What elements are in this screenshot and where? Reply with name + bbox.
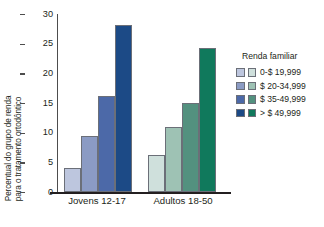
legend-swatch-blue-icon [236,95,245,104]
y-axis-tick-label: 20 [35,69,53,78]
bar-adultos-1 [148,155,165,192]
y-axis-tick [20,73,25,74]
y-axis-tick-label: 5 [35,158,53,167]
legend-item-4: > $ 49,999 [236,106,324,120]
legend-swatch-blue-icon [236,82,245,91]
legend-item-label: 0-$ 19,999 [260,68,301,77]
y-axis-title-line-2: para o tratamento ortodôntico [15,96,23,201]
y-axis-title: Percentual do grupo de renda para o trat… [0,0,30,205]
y-axis-tick-labels: 302520151050 [33,14,53,192]
plot-area [57,14,225,192]
bar-chart-figure: Percentual do grupo de renda para o trat… [0,0,324,227]
y-axis-tick-label: 30 [35,10,53,19]
legend-rows: 0-$ 19,999$ 20-34,999$ 35-49,999> $ 49,9… [236,66,324,120]
y-axis-title-line-1: Percentual do grupo de renda [5,95,13,201]
bar-jovens-2 [81,136,98,192]
legend-swatch-blue-icon [236,68,245,77]
bar-jovens-1 [64,168,81,192]
y-axis-tick-label: 10 [35,128,53,137]
y-axis-tick-label: 15 [35,99,53,108]
x-axis-line [50,192,231,194]
legend-swatch-blue-icon [236,109,245,118]
bar-adultos-2 [165,127,182,192]
bar-adultos-4 [199,48,216,192]
y-axis-tick [20,14,25,15]
legend-item-label: $ 20-34,999 [260,82,306,91]
y-axis-tick [20,162,25,163]
y-axis-tick [20,44,25,45]
legend-title: Renda familiar [242,52,324,61]
bar-group-jovens [64,14,140,192]
legend-item-label: > $ 49,999 [260,109,301,118]
bar-group-adultos [148,14,224,192]
y-axis-tick [20,133,25,134]
legend: Renda familiar 0-$ 19,999$ 20-34,999$ 35… [236,52,324,120]
legend-item-2: $ 20-34,999 [236,79,324,93]
legend-swatch-green-icon [248,95,257,104]
bar-jovens-4 [115,25,132,192]
legend-item-1: 0-$ 19,999 [236,66,324,80]
legend-swatch-green-icon [248,109,257,118]
y-axis-tick [20,103,25,104]
bar-jovens-3 [98,96,115,192]
legend-item-3: $ 35-49,999 [236,93,324,107]
x-axis-category-jovens: Jovens 12-17 [58,196,136,206]
y-axis-tick [20,192,25,193]
y-axis-tick-label: 25 [35,39,53,48]
legend-swatch-green-icon [248,68,257,77]
x-axis-category-adultos: Adultos 18-50 [142,196,224,206]
bar-adultos-3 [182,103,199,192]
legend-item-label: $ 35-49,999 [260,95,306,104]
legend-swatch-green-icon [248,82,257,91]
